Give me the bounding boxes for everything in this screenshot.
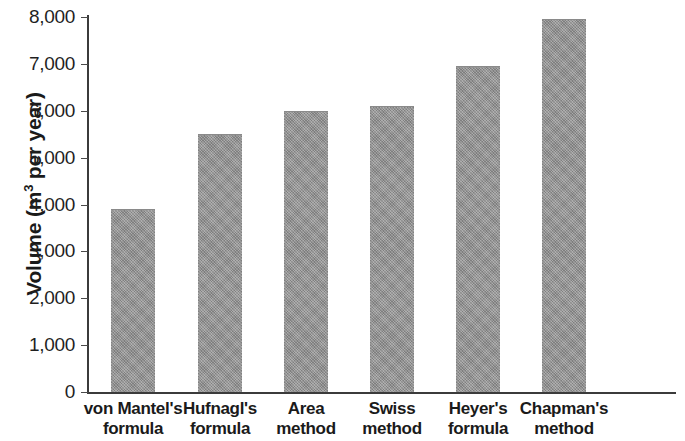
y-axis-tick-label: 6,000 [0,101,75,120]
bar [542,19,586,392]
x-axis-line [87,392,676,394]
y-axis-tick-label: 1,000 [0,335,75,354]
plot-area [88,17,676,392]
y-axis-tick-label: 2,000 [0,288,75,307]
y-axis-tick-label: 7,000 [0,54,75,73]
y-axis-tick-mark [81,111,88,112]
bar [111,209,155,392]
category-label-line1: Chapman's [520,399,608,418]
bar [198,134,242,392]
y-axis-tick-mark [81,64,88,65]
category-label-line2: method [504,419,624,439]
bar [456,66,500,392]
y-axis-tick-mark [81,158,88,159]
y-axis-tick-mark [81,345,88,346]
y-axis-tick-mark [81,298,88,299]
y-axis-tick-mark [81,251,88,252]
y-axis-tick-label: 5,000 [0,148,75,167]
category-label-line1: Swiss [369,399,416,418]
y-axis-tick-mark [81,17,88,18]
bar [284,111,328,392]
y-axis-title-superscript: 3 [21,185,36,192]
bar [370,106,414,392]
bar-chart: Volume (m3 per year) 01,0002,0003,0004,0… [0,0,685,441]
category-label-line1: Heyer's [449,399,508,418]
category-label-line1: Area [288,399,325,418]
y-axis-tick-label: 4,000 [0,195,75,214]
y-axis-tick-mark [81,392,88,393]
y-axis-tick-label: 8,000 [0,7,75,26]
y-axis-tick-label: 3,000 [0,241,75,260]
x-axis-category-label: Chapman'smethod [504,399,624,439]
y-axis-tick-mark [81,205,88,206]
y-axis-tick-label: 0 [0,382,75,401]
